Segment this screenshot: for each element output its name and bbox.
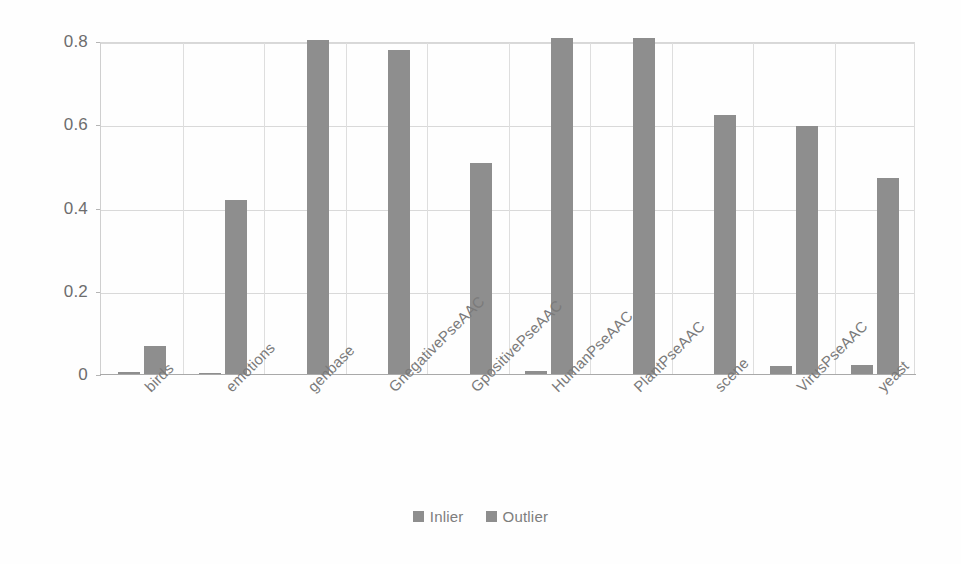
x-axis-tick-label: GpositivePseAAC — [467, 383, 479, 395]
x-axis-tick-label: genbase — [304, 383, 316, 395]
legend-label: Inlier — [430, 508, 464, 525]
y-axis-tick-label: 0.8 — [8, 32, 88, 52]
legend-swatch-inlier-icon — [413, 511, 424, 522]
x-axis-tick: VirusPseAAC — [752, 375, 834, 495]
bar-group — [101, 43, 183, 375]
x-axis-tick: yeast — [834, 375, 916, 495]
plot-area — [100, 42, 915, 375]
x-axis-labels: birdsemotionsgenbaseGnegativePseAACGposi… — [100, 375, 915, 495]
bar-group — [264, 43, 346, 375]
bar-outlier — [470, 163, 492, 375]
x-axis-tick-label: yeast — [874, 383, 886, 395]
bar-group — [753, 43, 835, 375]
y-axis-tick-label: 0.2 — [8, 282, 88, 302]
bar-group — [346, 43, 428, 375]
x-axis-tick: scene — [671, 375, 753, 495]
x-axis-tick-label: PlantPseAAC — [630, 383, 642, 395]
bar-outlier — [225, 200, 247, 375]
bar-outlier — [307, 40, 329, 375]
legend-label: Outlier — [503, 508, 549, 525]
x-axis-tick: GpositivePseAAC — [426, 375, 508, 495]
chart-legend: InlierOutlier — [0, 508, 961, 525]
bar-outlier — [877, 178, 899, 375]
x-axis-tick-label: GnegativePseAAC — [385, 383, 397, 395]
bar-outlier — [714, 115, 736, 375]
bar-group — [590, 43, 672, 375]
x-axis-tick-label: VirusPseAAC — [793, 383, 805, 395]
legend-swatch-outlier-icon — [486, 511, 497, 522]
bar-outlier — [796, 126, 818, 375]
legend-item-outlier[interactable]: Outlier — [486, 508, 549, 525]
y-axis-tick-label: 0.6 — [8, 115, 88, 135]
bar-group — [509, 43, 591, 375]
x-axis-tick: HumanPseAAC — [508, 375, 590, 495]
x-axis-tick-label: emotions — [222, 383, 234, 395]
bar-outlier — [633, 38, 655, 375]
x-axis-tick: GnegativePseAAC — [345, 375, 427, 495]
bar-group — [183, 43, 265, 375]
y-axis-tick-label: 0 — [8, 365, 88, 385]
bar-group — [835, 43, 917, 375]
legend-item-inlier[interactable]: Inlier — [413, 508, 464, 525]
bar-group — [672, 43, 754, 375]
x-axis-tick: birds — [100, 375, 182, 495]
bar-outlier — [551, 38, 573, 375]
x-axis-tick-label: HumanPseAAC — [548, 383, 560, 395]
bar-outlier — [388, 50, 410, 375]
x-axis-tick-label: scene — [711, 383, 723, 395]
bar-group — [427, 43, 509, 375]
bar-chart: 00.20.40.60.8 birdsemotionsgenbaseGnegat… — [0, 0, 961, 564]
x-axis-tick: PlantPseAAC — [589, 375, 671, 495]
y-axis: 00.20.40.60.8 — [0, 0, 88, 564]
x-axis-tick: emotions — [182, 375, 264, 495]
y-axis-tick-label: 0.4 — [8, 199, 88, 219]
x-axis-tick: genbase — [263, 375, 345, 495]
x-axis-tick-label: birds — [141, 383, 153, 395]
